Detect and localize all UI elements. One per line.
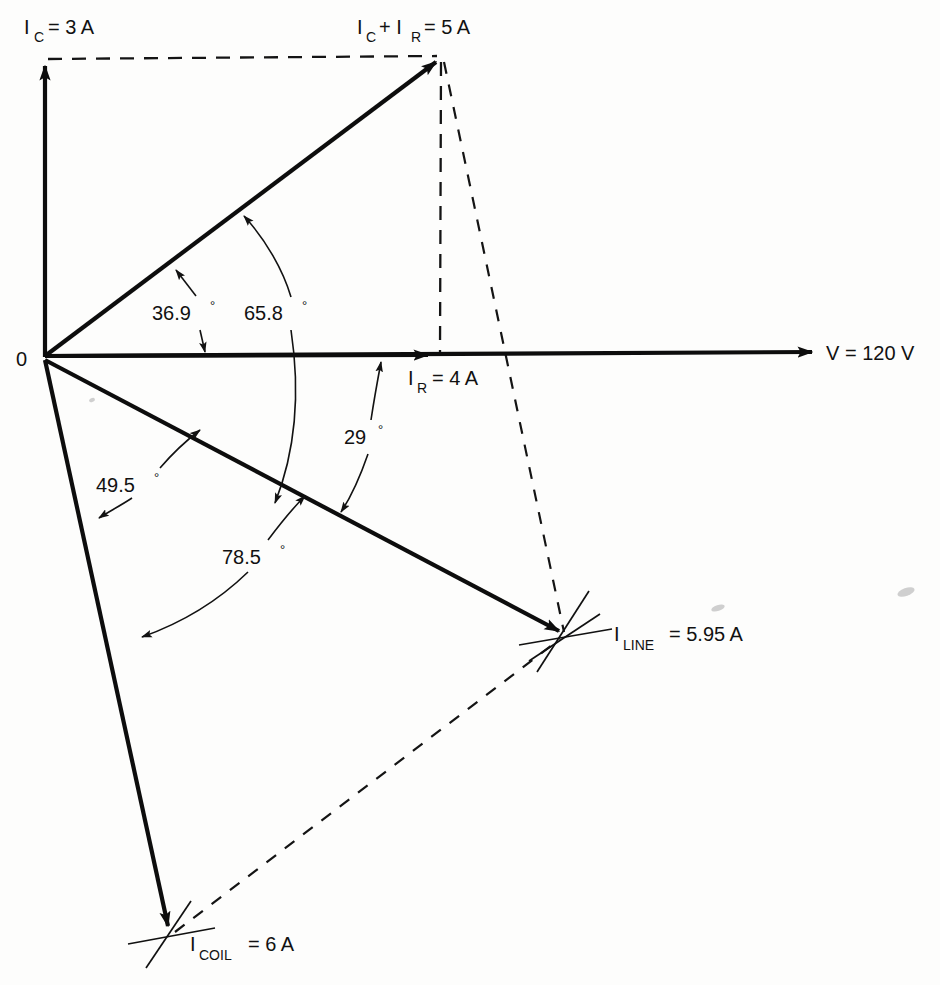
label-v: V = 120 V	[826, 342, 915, 364]
angle-36-9-value: 36.9	[152, 302, 191, 324]
label-ir-subscript: R	[417, 380, 427, 396]
label-iline-subscript: LINE	[623, 637, 654, 653]
label-icoil-subscript: COIL	[199, 947, 232, 963]
angle-29-value: 29	[344, 426, 366, 448]
angle-78-5-value: 78.5	[222, 546, 261, 568]
label-icoil-value: = 6 A	[248, 933, 295, 955]
paper-background	[0, 0, 940, 985]
angle-29-unit: °	[378, 422, 383, 437]
label-ir-value: = 4 A	[432, 367, 479, 389]
angle-49-5-unit: °	[154, 470, 159, 485]
label-ic-subscript: C	[34, 29, 44, 45]
angle-78-5-unit: °	[280, 542, 285, 557]
vector-ir	[45, 355, 428, 356]
label-sum-value: = 5 A	[424, 16, 471, 38]
label-iline-symbol: I	[614, 623, 620, 645]
label-sum-symbol-2: + I	[379, 16, 402, 38]
label-iline-value: = 5.95 A	[669, 623, 744, 645]
angle-36-9-unit: °	[210, 298, 215, 313]
phasor-diagram-svg: 0 I C = 3 A I C + I R = 5 A V = 120 V I …	[0, 0, 940, 985]
angle-65-8-unit: °	[302, 298, 307, 313]
angle-49-5-value: 49.5	[96, 474, 135, 496]
label-icoil-symbol: I	[190, 933, 196, 955]
label-sum-subscript-1: C	[366, 29, 376, 45]
label-ic-symbol: I	[24, 16, 30, 38]
angle-65-8-value: 65.8	[244, 302, 283, 324]
label-sum-subscript-2: R	[411, 29, 421, 45]
phasor-diagram-canvas: 0 I C = 3 A I C + I R = 5 A V = 120 V I …	[0, 0, 940, 985]
label-ir-symbol: I	[408, 367, 414, 389]
label-sum-symbol-1: I	[357, 16, 363, 38]
origin-label: 0	[16, 348, 27, 370]
label-ic-value: = 3 A	[48, 16, 95, 38]
